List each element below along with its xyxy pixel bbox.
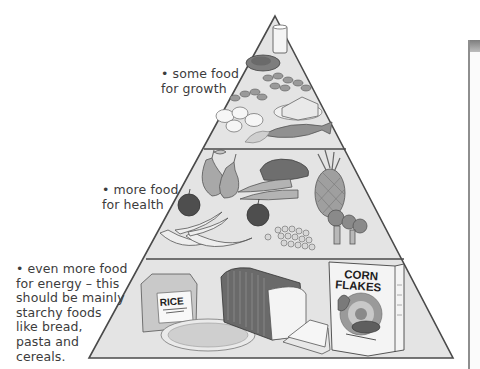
- growth-tier-label: • some food for growth: [161, 67, 239, 96]
- milk-glass-icon: [273, 25, 287, 53]
- energy-tier-label: • even more food for energy – this shoul…: [16, 262, 128, 364]
- health-tier-label: • more food for health: [102, 183, 178, 212]
- rice-label: RICE: [159, 295, 184, 308]
- meat-icon: [246, 55, 280, 71]
- side-panel-edge: [468, 40, 480, 369]
- side-panel-header: [470, 40, 480, 52]
- corn-flakes-box-icon: CORN FLAKES: [329, 262, 404, 356]
